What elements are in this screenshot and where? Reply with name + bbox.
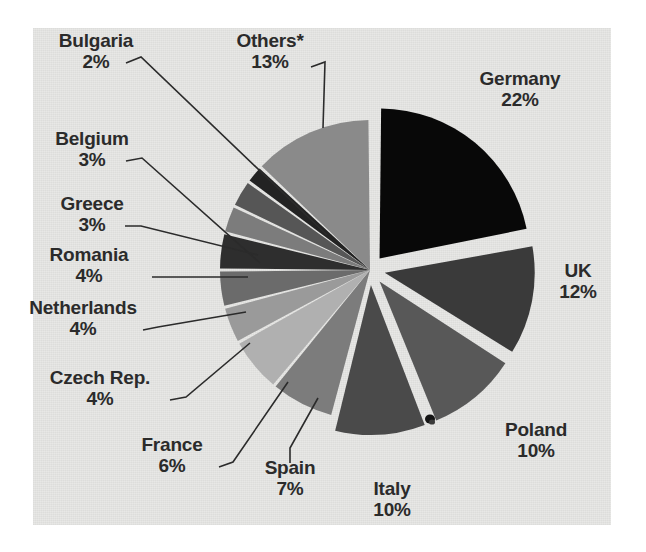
chart-figure: Bulgaria 2% Others* 13% Germany 22% Belg… [0,0,646,552]
label-poland-name: Poland [505,419,567,440]
label-germany-value: 22% [456,89,584,110]
label-italy: Italy 10% [348,478,436,521]
label-others: Others* 13% [215,30,325,73]
label-france-value: 6% [120,455,224,476]
label-poland-value: 10% [478,440,594,461]
label-greece-name: Greece [60,193,123,214]
label-belgium: Belgium 3% [36,128,148,171]
label-czech-rep: Czech Rep. 4% [30,367,170,410]
label-spain-name: Spain [265,457,316,478]
label-romania-value: 4% [26,265,152,286]
label-uk-value: 12% [540,281,616,302]
leader-line-czech-rep [170,343,250,400]
label-greece-value: 3% [36,214,148,235]
pie-slices-group [220,108,535,435]
label-poland: Poland 10% [478,419,594,462]
label-uk-name: UK [564,260,591,281]
label-belgium-value: 3% [36,149,148,170]
label-romania: Romania 4% [26,244,152,287]
label-spain-value: 7% [242,478,338,499]
label-germany: Germany 22% [456,68,584,111]
label-czech-rep-value: 4% [30,388,170,409]
label-france-name: France [141,434,202,455]
label-others-name: Others* [236,30,303,51]
label-bulgaria-value: 2% [36,51,156,72]
label-netherlands-value: 4% [18,318,148,339]
label-germany-name: Germany [480,68,561,89]
label-netherlands-name: Netherlands [29,297,137,318]
scan-artifact-speck [425,415,435,425]
label-romania-name: Romania [50,244,129,265]
label-greece: Greece 3% [36,193,148,236]
label-czech-rep-name: Czech Rep. [50,367,150,388]
label-belgium-name: Belgium [55,128,129,149]
leader-line-france [219,382,288,467]
pie-slice-germany[interactable] [380,108,527,258]
label-france: France 6% [120,434,224,477]
label-bulgaria-name: Bulgaria [59,30,133,51]
label-italy-name: Italy [373,478,410,499]
label-uk: UK 12% [540,260,616,303]
label-spain: Spain 7% [242,457,338,500]
label-bulgaria: Bulgaria 2% [36,30,156,73]
label-others-value: 13% [215,51,325,72]
label-italy-value: 10% [348,499,436,520]
label-netherlands: Netherlands 4% [18,297,148,340]
